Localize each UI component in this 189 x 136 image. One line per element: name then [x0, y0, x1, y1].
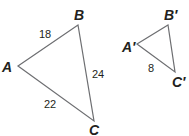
vertex-label-a-prime: A′	[121, 39, 136, 55]
vertex-label-c-prime: C′	[172, 74, 186, 90]
vertex-label-c: C	[89, 122, 100, 136]
vertex-label-b: B	[74, 7, 84, 23]
similar-triangles-diagram: A B C 18 24 22 A′ B′ C′ 8	[0, 0, 189, 136]
triangle-a-prime-b-prime-c-prime	[137, 25, 175, 72]
side-ac-length: 22	[44, 98, 56, 110]
side-bc-length: 24	[92, 68, 104, 80]
side-ab-length: 18	[39, 28, 51, 40]
vertex-label-b-prime: B′	[164, 7, 178, 23]
vertex-label-a: A	[1, 59, 12, 75]
side-a-prime-c-prime-length: 8	[148, 62, 154, 74]
